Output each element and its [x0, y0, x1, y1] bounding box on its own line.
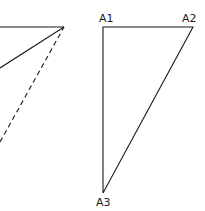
left-figure	[0, 27, 64, 142]
vertex-label-a3: A3	[96, 197, 111, 208]
vertex-label-a2: A2	[182, 13, 197, 24]
triangle-a1-a2-a3	[103, 27, 193, 193]
right-triangle	[103, 27, 193, 193]
left-diagonal-solid	[0, 27, 64, 68]
left-diagonal-dashed	[0, 27, 64, 142]
vertex-label-a1: A1	[99, 13, 114, 24]
diagram-canvas	[0, 0, 205, 211]
